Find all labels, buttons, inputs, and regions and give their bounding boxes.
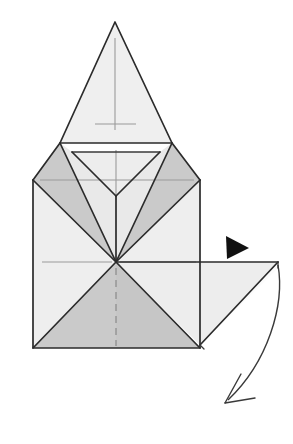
solid-fold-direction-arrowhead [226, 236, 249, 259]
origami-diagram: Origami fold diagram Origami step diagra… [0, 0, 293, 444]
top-point-flap [60, 22, 172, 143]
origami-figure: Origami fold diagram Origami step diagra… [0, 0, 293, 444]
fold-arrows [225, 236, 280, 403]
paper-panels [33, 22, 278, 348]
